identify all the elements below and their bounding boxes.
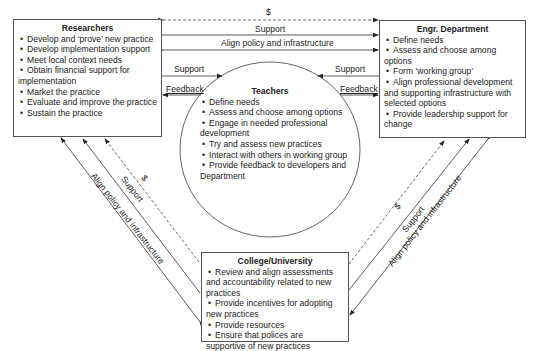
list-item: Define needs xyxy=(200,97,348,108)
engr-department-list: Define needs Assess and choose among opt… xyxy=(384,35,521,130)
engr-department-title: Engr. Department xyxy=(384,24,521,35)
college-university-title: College/University xyxy=(206,256,344,267)
engr-department-box: Engr. Department Define needs Assess and… xyxy=(379,20,526,138)
researchers-title: Researchers xyxy=(18,23,157,34)
list-item: Provide incentives for adopting new prac… xyxy=(206,298,344,319)
college-university-list: Review and align assessments and account… xyxy=(206,267,344,351)
top-dollar-label: $ xyxy=(266,7,271,17)
right-support-label: Support xyxy=(335,64,365,74)
list-item: Obtain financial support for implementat… xyxy=(18,65,157,86)
list-item: Sustain the practice xyxy=(18,108,157,119)
list-item: Meet local context needs xyxy=(18,55,157,66)
teachers-list: Define needs Assess and choose among opt… xyxy=(200,97,348,182)
list-item: Assess and choose among options xyxy=(384,45,521,66)
list-item: Provide feedback to developers and Depar… xyxy=(200,160,348,181)
left-diag-support-arrow xyxy=(83,139,200,293)
teachers-title: Teachers xyxy=(200,86,348,97)
list-item: Try and assess new practices xyxy=(200,139,348,150)
list-item: Develop implementation support xyxy=(18,44,157,55)
left-feedback-label: Feedback xyxy=(166,84,204,94)
right-feedback-label: Feedback xyxy=(340,84,378,94)
list-item: Provide leadership support for change xyxy=(384,109,521,130)
list-item: Evaluate and improve the practice xyxy=(18,97,157,108)
list-item: Develop and ‘prove’ new practice xyxy=(18,34,157,45)
college-university-box: College/University Review and align asse… xyxy=(201,252,349,342)
list-item: Form ‘working group’ xyxy=(384,66,521,77)
teachers-content: Teachers Define needs Assess and choose … xyxy=(200,86,348,181)
list-item: Assess and choose among options xyxy=(200,107,348,118)
list-item: Engage in needed professional developmen… xyxy=(200,118,348,139)
researchers-list: Develop and ‘prove’ new practice Develop… xyxy=(18,34,157,119)
list-item: Align professional development and suppo… xyxy=(384,77,521,109)
top-align-label: Align policy and infrastructure xyxy=(221,38,334,48)
left-support-label: Support xyxy=(174,64,204,74)
list-item: Review and align assessments and account… xyxy=(206,267,344,299)
list-item: Define needs xyxy=(384,35,521,46)
list-item: Interact with others in working group xyxy=(200,150,348,161)
list-item: Market the practice xyxy=(18,87,157,98)
researchers-box: Researchers Develop and ‘prove’ new prac… xyxy=(13,19,162,137)
list-item: Provide resources xyxy=(206,320,344,331)
list-item: Ensure that polices are supportive of ne… xyxy=(206,330,344,351)
top-support-label: Support xyxy=(255,24,285,34)
